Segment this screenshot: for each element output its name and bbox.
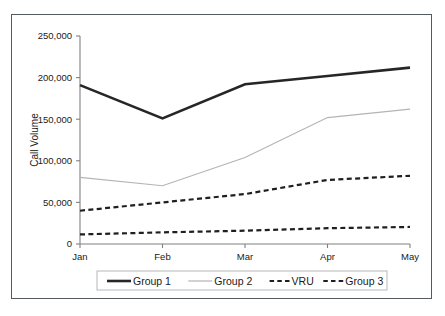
legend-label-vru: VRU	[292, 275, 314, 287]
chart-figure: 050,000100,000150,000200,000250,000 JanF…	[0, 0, 445, 316]
y-tick-label: 250,000	[38, 30, 72, 41]
legend-label-group-1: Group 1	[133, 275, 171, 287]
y-axis-title: Call Volume	[29, 113, 40, 167]
chart-series-group	[80, 68, 410, 235]
x-tick-label: Apr	[320, 251, 335, 262]
x-tick-label: May	[401, 251, 419, 262]
y-axis-tick-labels: 050,000100,000150,000200,000250,000	[38, 30, 72, 249]
series-line-group-2	[80, 109, 410, 186]
series-line-group-3	[80, 227, 410, 234]
series-line-vru	[80, 176, 410, 211]
x-tick-label: Jan	[72, 251, 87, 262]
legend-label-group-3: Group 3	[345, 275, 383, 287]
x-tick-label: Mar	[237, 251, 253, 262]
legend-label-group-2: Group 2	[214, 275, 252, 287]
y-axis-ticks	[76, 36, 80, 244]
series-line-group-1	[80, 68, 410, 119]
y-tick-label: 50,000	[43, 197, 72, 208]
x-axis-tick-labels: JanFebMarAprMay	[72, 251, 419, 262]
y-tick-label: 100,000	[38, 155, 72, 166]
chart-legend: Group 1Group 2VRUGroup 3	[97, 271, 387, 290]
chart-axes	[76, 36, 410, 248]
y-tick-label: 200,000	[38, 72, 72, 83]
x-axis-ticks	[80, 244, 410, 248]
y-tick-label: 150,000	[38, 114, 72, 125]
line-chart: 050,000100,000150,000200,000250,000 JanF…	[0, 0, 445, 316]
x-tick-label: Feb	[154, 251, 170, 262]
y-tick-label: 0	[67, 238, 72, 249]
